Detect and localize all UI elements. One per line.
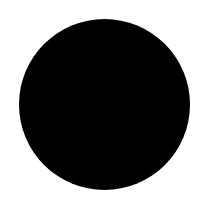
canvas: [0, 0, 203, 208]
black-circle: [19, 19, 190, 190]
